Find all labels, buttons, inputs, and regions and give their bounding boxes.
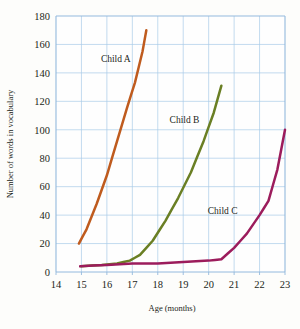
series-label-child-b: Child B [170, 115, 200, 125]
x-axis-title: Age (months) [149, 303, 196, 313]
y-tick-label: 160 [34, 39, 50, 50]
y-tick-label: 100 [34, 125, 50, 136]
plot-area-background [56, 16, 285, 272]
x-tick-label: 16 [102, 279, 113, 290]
x-tick-label: 22 [254, 279, 265, 290]
chart-container: 020406080100120140160180 141516171819202… [0, 0, 300, 329]
y-axis-title: Number of words in vocabulary [5, 89, 15, 198]
y-tick-label: 80 [40, 153, 51, 164]
y-tick-label: 0 [45, 267, 50, 278]
x-tick-label: 20 [203, 279, 214, 290]
series-label-child-c: Child C [208, 206, 238, 216]
x-tick-label: 15 [76, 279, 87, 290]
x-tick-label: 21 [229, 279, 240, 290]
y-tick-label: 120 [34, 96, 50, 107]
series-label-child-a: Child A [101, 54, 131, 64]
x-tick-label: 17 [127, 279, 138, 290]
y-tick-label: 40 [40, 210, 51, 221]
x-tick-label: 19 [178, 279, 189, 290]
y-tick-label: 60 [40, 181, 51, 192]
y-tick-label: 20 [40, 238, 51, 249]
x-tick-label: 14 [51, 279, 62, 290]
vocabulary-growth-line-chart: 020406080100120140160180 141516171819202… [0, 0, 300, 329]
x-tick-label: 23 [280, 279, 291, 290]
y-tick-label: 180 [34, 11, 50, 22]
y-tick-label: 140 [34, 68, 50, 79]
x-tick-label: 18 [153, 279, 164, 290]
